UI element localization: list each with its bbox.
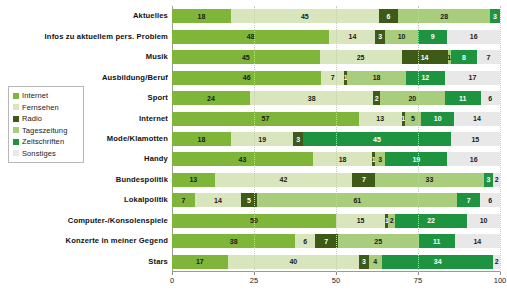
bar-segment: 18 — [313, 152, 372, 166]
bar-segment: 38 — [172, 234, 295, 248]
bar-segment-value: 14 — [348, 33, 356, 40]
bar-segment: 7 — [321, 71, 344, 85]
bar-segment-value: 17 — [469, 74, 477, 81]
bar-segment: 28 — [398, 9, 490, 23]
bar-segment-value: 3 — [296, 136, 300, 143]
bar-segment-value: 13 — [376, 115, 384, 122]
bar-segment: 17 — [172, 255, 228, 269]
bar-segment: 45 — [303, 132, 451, 146]
bar-segment: 34 — [382, 255, 494, 269]
bar-segment: 57 — [172, 112, 359, 126]
bar-segment: 18 — [347, 71, 405, 85]
bar-segment: 6 — [379, 9, 399, 23]
bar-segment: 46 — [172, 71, 321, 85]
bar-segment-value: 3 — [378, 156, 382, 163]
bar-segment-value: 9 — [431, 33, 435, 40]
bar-segment: 14 — [195, 193, 241, 207]
gridline — [500, 6, 501, 272]
bar-segment: 14 — [454, 112, 500, 126]
bar-segment-value: 14 — [214, 197, 222, 204]
bar-segment: 20 — [380, 91, 445, 105]
x-axis: 0255075100 — [172, 272, 500, 292]
bar-segment-value: 13 — [189, 176, 197, 183]
bar-segment-value: 19 — [258, 136, 266, 143]
bar-segment: 11 — [419, 234, 455, 248]
bar-segment-value: 2 — [495, 258, 499, 265]
bar-segment: 7 — [457, 193, 480, 207]
bar-segment: 33 — [375, 173, 483, 187]
x-axis-tick — [254, 272, 255, 275]
bar-segment-value: 45 — [301, 13, 309, 20]
category-label: Ausbildung/Beruf — [102, 73, 168, 82]
bar-segment-value: 20 — [408, 95, 416, 102]
bar-segment: 10 — [421, 112, 454, 126]
bar-segment-value: 38 — [308, 95, 316, 102]
bar-segment: 19 — [231, 132, 293, 146]
bar-segment-value: 15 — [471, 136, 479, 143]
bar-segment-value: 17 — [196, 258, 204, 265]
bar-segment-value: 42 — [280, 176, 288, 183]
bar-segment: 13 — [359, 112, 402, 126]
bar-segment: 61 — [257, 193, 457, 207]
bar-segment: 16 — [447, 30, 499, 44]
bar-segment: 19 — [385, 152, 447, 166]
bar-segment-value: 3 — [487, 176, 491, 183]
bar-segment-value: 3 — [378, 33, 382, 40]
bar-segment-value: 6 — [488, 95, 492, 102]
bar-segment: 2 — [493, 173, 500, 187]
bar-segment-value: 11 — [459, 95, 466, 102]
bar-segment-value: 11 — [433, 238, 440, 245]
bar-segment: 14 — [455, 234, 500, 248]
bar-segment: 15 — [451, 132, 500, 146]
bar-segment: 48 — [172, 30, 329, 44]
bar-segment-value: 18 — [339, 156, 347, 163]
x-axis-tick-label: 100 — [494, 276, 507, 285]
bar-segment-value: 57 — [262, 115, 270, 122]
x-axis-tick — [418, 272, 419, 275]
category-label: Mode/Klamotten — [107, 134, 168, 143]
x-axis-tick-label: 75 — [414, 276, 422, 285]
bar-segment-value: 18 — [373, 74, 381, 81]
bar-segment: 8 — [451, 50, 477, 64]
bar-segment-value: 19 — [412, 156, 420, 163]
bar-segment-value: 14 — [473, 115, 481, 122]
bar-segment: 9 — [418, 30, 448, 44]
bar-segment: 14 — [402, 50, 448, 64]
category-label: Bundespolitik — [116, 175, 168, 184]
plot-area: 1845628348143109164525141874671181217243… — [172, 6, 500, 272]
bar-segment: 3 — [375, 152, 385, 166]
bar-segment-value: 7 — [487, 54, 491, 61]
gridline — [336, 6, 337, 272]
bar-segment-value: 8 — [462, 54, 466, 61]
bar-segment-value: 3 — [362, 258, 366, 265]
bar-segment: 17 — [445, 71, 500, 85]
bar-segment-value: 5 — [411, 115, 415, 122]
gridline — [254, 6, 255, 272]
bar-segment: 7 — [172, 193, 195, 207]
bar-segment-value: 6 — [387, 13, 391, 20]
bar-segment: 24 — [172, 91, 250, 105]
bar-segment-value: 7 — [362, 176, 366, 183]
bar-segment-value: 6 — [488, 197, 492, 204]
category-label: Sport — [147, 93, 168, 102]
bar-segment-value: 25 — [374, 238, 382, 245]
bar-segment: 25 — [320, 50, 402, 64]
bar-segment: 18 — [172, 132, 231, 146]
bar-segment: 40 — [228, 255, 359, 269]
gridline — [418, 6, 419, 272]
bar-segment: 45 — [172, 50, 320, 64]
bar-segment-value: 18 — [198, 13, 206, 20]
x-axis-tick — [172, 272, 173, 275]
category-label: Internet — [139, 114, 168, 123]
bar-segment-value: 33 — [426, 176, 434, 183]
bar-segment: 18 — [172, 9, 231, 23]
bar-segment-value: 14 — [421, 54, 429, 61]
bar-segment-value: 7 — [331, 74, 335, 81]
x-axis-tick-label: 25 — [250, 276, 258, 285]
bar-segment-value: 15 — [357, 217, 365, 224]
bar-segment-value: 38 — [230, 238, 238, 245]
bar-segment-value: 2 — [495, 176, 499, 183]
bar-segment-value: 5 — [247, 197, 251, 204]
bar-segment: 6 — [295, 234, 314, 248]
bar-segment: 38 — [250, 91, 373, 105]
